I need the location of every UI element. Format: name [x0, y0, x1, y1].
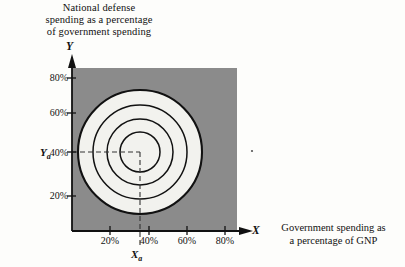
chart-figure: National defense spending as a percentag… — [0, 0, 405, 267]
x-axis-arrow — [239, 227, 253, 235]
scan-speck — [251, 150, 253, 152]
chart-canvas — [0, 0, 405, 267]
y-axis-arrow — [68, 54, 76, 68]
